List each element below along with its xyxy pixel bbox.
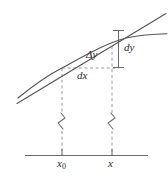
label-dx: dx bbox=[77, 70, 87, 81]
figure-canvas bbox=[0, 0, 168, 176]
function-curve bbox=[18, 34, 167, 98]
dy-measure-bar bbox=[113, 30, 124, 68]
label-dy: dy bbox=[124, 42, 134, 53]
axis-label-x0: x0 bbox=[57, 158, 66, 169]
construction-lines bbox=[62, 46, 119, 155]
break-marks-group bbox=[58, 113, 115, 129]
axis-label-x0-subscript: 0 bbox=[62, 162, 66, 171]
label-delta-y: Δy bbox=[86, 49, 97, 60]
x-axis-group bbox=[25, 149, 148, 156]
axis-break-zigzag-icon-left bbox=[58, 113, 65, 129]
axis-break-zigzag-icon-right bbox=[108, 113, 115, 129]
differential-figure: Δy dy dx x0 x bbox=[0, 0, 168, 176]
axis-label-x: x bbox=[108, 158, 113, 169]
